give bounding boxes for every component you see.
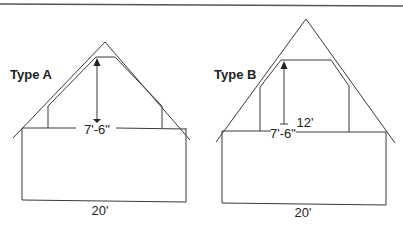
type-a-ceiling-height-label: 7'-6" (84, 122, 110, 137)
type-b-ceiling-height-label: 7'-6" (270, 126, 296, 141)
type-a-width-label: 20' (92, 203, 109, 218)
type-a-arrowhead-up (94, 58, 101, 66)
type-b-room-width-label: 12' (297, 115, 314, 130)
type-b-arrowhead-up (281, 61, 288, 69)
type-a-label: Type A (10, 67, 53, 82)
type-b-label: Type B (214, 67, 256, 82)
top-rule (0, 4, 403, 6)
type-a-wall-box (22, 128, 186, 202)
type-a-diagram: Type A 7'-6" 20' (10, 42, 190, 218)
type-b-diagram: Type B 12' 7'-6" 20' (214, 19, 395, 220)
attic-types-diagram: Type A 7'-6" 20' Type B 12' 7' (0, 0, 403, 233)
type-b-wall-box (222, 131, 386, 205)
type-a-room-outline (48, 57, 162, 128)
type-a-floor-line-right (116, 128, 186, 129)
type-b-width-label: 20' (295, 205, 312, 220)
